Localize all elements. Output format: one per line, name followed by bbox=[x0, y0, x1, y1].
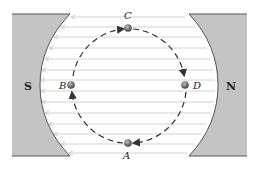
south-pole-label: S bbox=[24, 80, 32, 93]
point-label-a: A bbox=[122, 150, 130, 161]
particle-path bbox=[72, 29, 186, 143]
point-label-c: C bbox=[124, 10, 132, 21]
magnetic-field-diagram: S N C D A B bbox=[0, 0, 259, 169]
particle-d: D bbox=[181, 80, 201, 91]
point-label-b: B bbox=[58, 80, 66, 91]
particle-a: A bbox=[122, 139, 132, 161]
field-lines bbox=[41, 15, 215, 155]
particle-c: C bbox=[124, 10, 132, 32]
north-pole-label: N bbox=[226, 80, 236, 93]
particle-b: B bbox=[58, 80, 75, 91]
point-label-d: D bbox=[192, 80, 201, 91]
